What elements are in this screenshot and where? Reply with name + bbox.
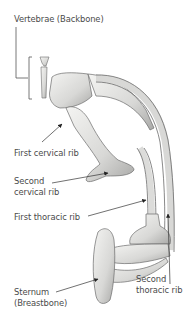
- vertebrae-bracket: [16, 27, 32, 99]
- second-cervical-rib-bone: [66, 107, 134, 182]
- label-second-thoracic-rib-line2: thoracic rib: [136, 285, 182, 295]
- label-sternum-line2: (Breastbone): [14, 298, 67, 308]
- second-thoracic-rib-bone: [108, 214, 171, 282]
- label-first-thoracic-rib: First thoracic rib: [14, 212, 80, 222]
- vertebrae-bone: [40, 57, 49, 98]
- label-second-cervical-rib-line2: cervical rib: [14, 187, 59, 197]
- sternum-bone: [93, 229, 115, 304]
- leader-sternum: [56, 279, 98, 292]
- label-second-cervical-rib-line1: Second: [14, 176, 44, 186]
- label-first-cervical-rib: First cervical rib: [14, 148, 79, 158]
- leader-first-cervical-rib: [42, 124, 62, 142]
- label-sternum-line1: Sternum: [14, 287, 49, 297]
- label-second-thoracic-rib-line1: Second: [136, 274, 166, 284]
- label-vertebrae: Vertebrae (Backbone): [14, 14, 104, 24]
- leader-first-thoracic-rib: [88, 200, 146, 216]
